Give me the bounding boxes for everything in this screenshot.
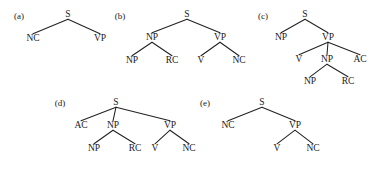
tree-edge-b-VP-V bbox=[201, 42, 220, 56]
tree-node-c-AC: AC bbox=[353, 54, 366, 64]
tree-edge-d-VP-NC bbox=[170, 130, 189, 144]
tree-edge-b-NP1-RC bbox=[152, 42, 172, 56]
tree-node-b-V: V bbox=[198, 55, 205, 65]
syntax-tree-figure: SNCVPSNPVPNPRCVNCSNPVPVNPACNPRCSACNPVPNP… bbox=[0, 0, 380, 171]
tree-edge-e-VP-NC2 bbox=[295, 130, 313, 144]
tree-edge-c-S-VP bbox=[305, 19, 328, 33]
panel-label-d: (d) bbox=[55, 98, 66, 108]
tree-node-d-VP: VP bbox=[164, 120, 176, 130]
tree-node-e-VP: VP bbox=[289, 120, 301, 130]
tree-edge-e-VP-V bbox=[277, 130, 295, 144]
tree-node-e-NC2: NC bbox=[306, 143, 319, 153]
tree-edge-b-S-NP1 bbox=[152, 19, 187, 33]
tree-edge-d-S-VP bbox=[116, 107, 170, 121]
tree-edge-d-VP-V bbox=[155, 130, 170, 144]
tree-node-d-V: V bbox=[152, 143, 159, 153]
panel-label-e: (e) bbox=[200, 98, 210, 108]
tree-diagram-canvas: SNCVPSNPVPNPRCVNCSNPVPVNPACNPRCSACNPVPNP… bbox=[0, 0, 380, 171]
panel-label-c: (c) bbox=[258, 11, 268, 21]
tree-node-d-NC: NC bbox=[182, 143, 195, 153]
tree-node-d-AC: AC bbox=[74, 120, 87, 130]
tree-node-c-VP: VP bbox=[322, 32, 334, 42]
labels-layer: SNCVPSNPVPNPRCVNCSNPVPVNPACNPRCSACNPVPNP… bbox=[26, 9, 366, 153]
tree-node-b-NP1: NP bbox=[146, 32, 158, 42]
tree-node-b-NC: NC bbox=[232, 55, 245, 65]
tree-edge-c-S-NP1 bbox=[281, 19, 305, 33]
tree-node-b-NP2: NP bbox=[126, 55, 138, 65]
tree-edge-a-S-NC bbox=[33, 19, 68, 34]
tree-edge-d-NP1-NP2 bbox=[94, 130, 113, 144]
tree-node-e-V: V bbox=[274, 143, 281, 153]
panel-label-a: (a) bbox=[14, 11, 24, 21]
tree-edge-d-S-AC bbox=[81, 107, 116, 121]
tree-node-c-S: S bbox=[302, 9, 307, 19]
tree-node-c-V: V bbox=[296, 54, 303, 64]
tree-edge-b-NP1-NP2 bbox=[132, 42, 152, 56]
tree-node-a-NC: NC bbox=[26, 33, 39, 43]
tree-node-e-NC1: NC bbox=[221, 120, 234, 130]
tree-node-c-RC: RC bbox=[342, 76, 355, 86]
tree-node-d-NP1: NP bbox=[107, 120, 119, 130]
tree-edge-b-VP-NC bbox=[220, 42, 239, 56]
tree-node-c-NP2: NP bbox=[321, 54, 333, 64]
panel-label-b: (b) bbox=[115, 11, 126, 21]
tree-edge-d-NP1-RC bbox=[113, 130, 135, 144]
tree-node-b-VP: VP bbox=[214, 32, 226, 42]
tree-edge-e-S-NC1 bbox=[228, 107, 262, 121]
tree-edge-c-VP-AC bbox=[328, 42, 360, 55]
tree-edge-c-NP2-RC bbox=[327, 64, 348, 77]
tree-node-b-RC: RC bbox=[166, 55, 179, 65]
tree-edge-c-NP2-NP3 bbox=[310, 64, 327, 77]
tree-node-c-NP3: NP bbox=[304, 76, 316, 86]
tree-node-a-S: S bbox=[65, 9, 70, 19]
tree-node-c-NP1: NP bbox=[275, 32, 287, 42]
tree-node-e-S: S bbox=[259, 97, 264, 107]
tree-edge-d-S-NP1 bbox=[113, 107, 116, 121]
tree-edge-c-VP-V bbox=[299, 42, 328, 55]
tree-node-b-S: S bbox=[184, 9, 189, 19]
tree-node-d-S: S bbox=[113, 97, 118, 107]
tree-edge-a-S-VP bbox=[68, 19, 100, 34]
tree-node-d-NP2: NP bbox=[88, 143, 100, 153]
tree-edge-e-S-VP bbox=[262, 107, 295, 121]
tree-edge-b-S-VP bbox=[187, 19, 220, 33]
tree-edge-c-VP-NP2 bbox=[327, 42, 328, 55]
tree-node-d-RC: RC bbox=[129, 143, 142, 153]
tree-node-a-VP: VP bbox=[94, 33, 106, 43]
